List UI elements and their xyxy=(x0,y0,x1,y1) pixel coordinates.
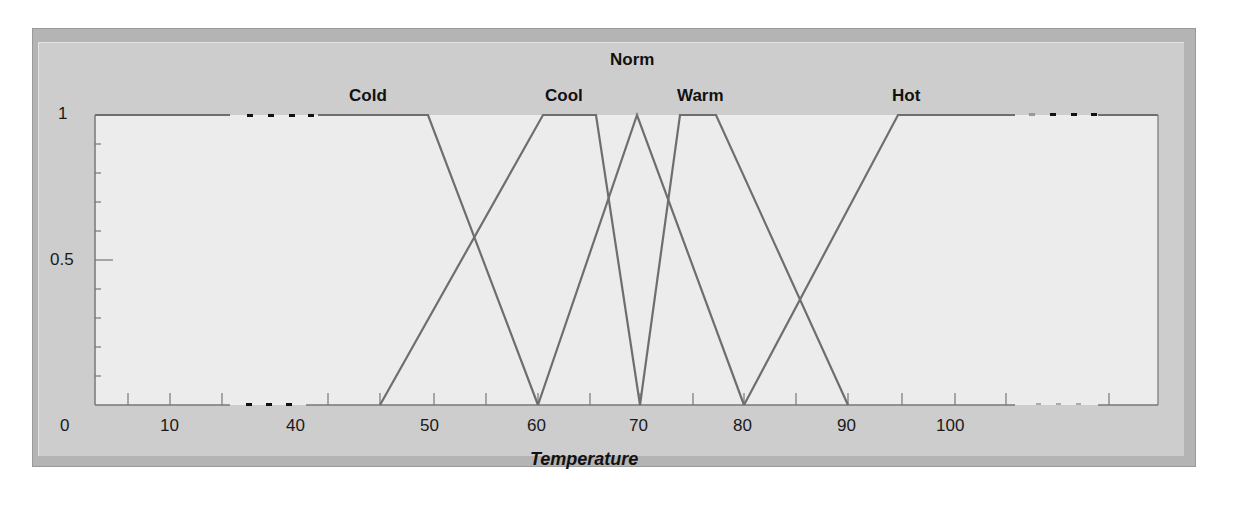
y-label-1: 1 xyxy=(58,104,67,124)
x-label-90: 90 xyxy=(837,416,856,436)
x-label-60: 60 xyxy=(527,416,546,436)
x-label-80: 80 xyxy=(733,416,752,436)
x-label-50: 50 xyxy=(420,416,439,436)
x-label-0: 0 xyxy=(60,416,69,436)
label-cool: Cool xyxy=(545,86,583,106)
plot-area xyxy=(95,115,1158,405)
x-label-70: 70 xyxy=(629,416,648,436)
label-cold: Cold xyxy=(349,86,387,106)
label-norm: Norm xyxy=(610,50,654,70)
label-hot: Hot xyxy=(892,86,920,106)
y-label-0-5: 0.5 xyxy=(50,250,74,270)
x-label-10: 10 xyxy=(160,416,179,436)
x-axis-title: Temperature xyxy=(530,449,638,470)
x-label-100: 100 xyxy=(936,416,964,436)
x-label-40: 40 xyxy=(286,416,305,436)
label-warm: Warm xyxy=(677,86,724,106)
membership-function-plot xyxy=(0,0,1238,524)
